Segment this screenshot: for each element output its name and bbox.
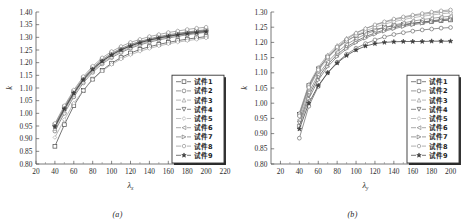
legend-item-1: 试件1 [429,77,448,86]
chart-legend: 试件1试件2试件3试件4试件5试件6试件7试件8试件9 [407,75,461,165]
legend-item-6: 试件6 [194,123,213,132]
x-tick-label: 20 [277,167,285,176]
y-tick-label: 1.10 [255,68,268,77]
x-tick-label: 100 [106,167,117,176]
x-tick-label: 40 [51,167,59,176]
legend-item-9: 试件9 [429,151,448,160]
x-tick-label: 60 [315,167,323,176]
x-tick-label: 140 [144,167,155,176]
legend-item-6: 试件6 [429,123,448,132]
y-tick-label: 1.25 [20,46,33,55]
y-tick-label: 1.30 [255,8,268,17]
y-tick-label: 1.35 [20,20,33,29]
y-tick-label: 1.05 [255,84,268,93]
y-tick-label: 1.20 [255,38,268,47]
y-tick-label: 0.85 [255,144,268,153]
legend-item-3: 试件3 [194,96,213,105]
y-tick-label: 1.10 [20,84,33,93]
legend-item-1: 试件1 [194,77,213,86]
chart-panel-b: 0.800.850.900.951.001.051.101.151.201.25… [235,0,470,221]
figure-container: 0.800.850.900.951.001.051.101.151.201.25… [0,0,470,221]
x-tick-label: 160 [407,167,418,176]
x-tick-label: 60 [70,167,78,176]
y-axis-title: k [240,86,249,90]
y-tick-label: 1.25 [255,23,268,32]
y-tick-label: 1.20 [20,58,33,67]
legend-item-9: 试件9 [194,151,213,160]
legend-item-7: 试件7 [194,132,213,141]
y-tick-label: 1.00 [255,99,268,108]
legend-item-8: 试件8 [429,142,448,151]
y-tick-label: 0.80 [255,160,268,169]
y-tick-label: 1.00 [20,109,33,118]
legend-item-8: 试件8 [194,142,213,151]
y-tick-label: 0.95 [255,114,268,123]
legend-item-2: 试件2 [194,86,213,95]
x-tick-label: 200 [445,167,456,176]
y-tick-label: 1.15 [255,53,268,62]
x-tick-label: 200 [201,167,212,176]
chart-legend: 试件1试件2试件3试件4试件5试件6试件7试件8试件9 [172,75,226,165]
x-tick-label: 160 [163,167,174,176]
y-tick-label: 1.05 [20,96,33,105]
x-tick-label: 20 [32,167,40,176]
y-tick-label: 0.95 [20,122,33,131]
y-axis-title: k [5,86,14,90]
x-tick-label: 40 [296,167,304,176]
x-tick-label: 120 [369,167,380,176]
legend-item-4: 试件4 [194,105,213,114]
x-axis-title: λx [126,181,134,191]
subcaption-a: (a) [0,210,235,219]
y-tick-label: 0.80 [20,160,33,169]
y-tick-label: 1.40 [20,8,33,17]
x-tick-label: 80 [89,167,97,176]
y-tick-label: 1.15 [20,71,33,80]
x-tick-label: 80 [333,167,341,176]
x-axis-title: λy [361,181,369,191]
y-tick-label: 1.30 [20,33,33,42]
x-tick-label: 220 [219,167,230,176]
chart-panel-a: 0.800.850.900.951.001.051.101.151.201.25… [0,0,235,221]
x-tick-label: 120 [125,167,136,176]
legend-item-4: 试件4 [429,105,448,114]
x-tick-label: 180 [426,167,437,176]
y-tick-label: 0.90 [20,134,33,143]
chart-b-canvas: 0.800.850.900.951.001.051.101.151.201.25… [235,0,470,200]
legend-item-5: 试件5 [194,114,213,123]
y-tick-label: 0.90 [255,129,268,138]
legend-item-7: 试件7 [429,132,448,141]
subcaption-b: (b) [235,210,470,219]
x-tick-label: 140 [388,167,399,176]
y-tick-label: 0.85 [20,147,33,156]
legend-item-3: 试件3 [429,96,448,105]
x-tick-label: 100 [351,167,362,176]
legend-item-2: 试件2 [429,86,448,95]
chart-a-canvas: 0.800.850.900.951.001.051.101.151.201.25… [0,0,235,200]
x-tick-label: 180 [182,167,193,176]
legend-item-5: 试件5 [429,114,448,123]
